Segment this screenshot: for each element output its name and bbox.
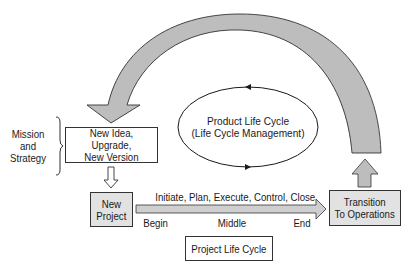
down-arrow-icon [104, 167, 118, 188]
middle-label: Middle [214, 217, 251, 229]
begin-label: Begin [143, 217, 171, 229]
new-idea-text: New Idea, Upgrade, New Version [70, 127, 154, 163]
ellipse-arrow-top-icon [245, 84, 251, 90]
end-label: End [291, 217, 313, 229]
brace-icon [56, 117, 63, 175]
phases-label: Initiate, Plan, Execute, Control, Close [155, 191, 321, 203]
new-project-box: New Project [90, 192, 133, 227]
project-life-cycle-text: Project Life Cycle [191, 243, 266, 255]
new-idea-box: New Idea, Upgrade, New Version [65, 127, 158, 163]
mission-strategy-label: Mission and Strategy [4, 128, 52, 164]
project-life-cycle-box: Project Life Cycle [185, 236, 273, 261]
new-project-text: New Project [96, 198, 126, 222]
transition-to-operations-box: Transition To Operations [329, 190, 401, 226]
ellipse-arrow-bottom-icon [245, 164, 251, 170]
product-life-cycle-label: Product Life Cycle (Life Cycle Managemen… [188, 115, 308, 139]
transition-text: Transition To Operations [335, 196, 395, 220]
diagram-canvas: Mission and Strategy New Idea, Upgrade, … [0, 0, 416, 271]
up-arrow-icon [352, 159, 378, 187]
